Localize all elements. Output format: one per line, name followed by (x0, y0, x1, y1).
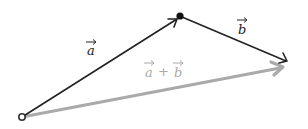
svg-text:a: a (87, 43, 95, 58)
vector-diagram: a b a + b (0, 0, 308, 129)
svg-text:+: + (158, 64, 169, 79)
junction-point (176, 12, 183, 19)
label-sum: a + b (144, 61, 183, 81)
origin-point (19, 114, 25, 120)
svg-text:b: b (174, 65, 182, 80)
label-b: b (237, 18, 247, 38)
label-a: a (86, 40, 96, 59)
vector-b (182, 17, 287, 63)
svg-text:a: a (145, 65, 153, 80)
svg-text:b: b (238, 22, 246, 37)
